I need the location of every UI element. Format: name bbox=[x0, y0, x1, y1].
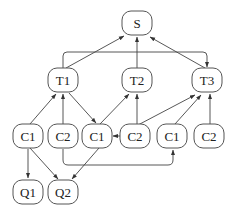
edge-T3-S bbox=[150, 37, 205, 68]
node-label: T3 bbox=[200, 73, 214, 88]
node-C2b: C2 bbox=[120, 124, 150, 148]
edge-C1c-T3 bbox=[175, 95, 201, 124]
node-C1b: C1 bbox=[82, 124, 112, 148]
node-T2: T2 bbox=[122, 68, 152, 92]
node-label: S bbox=[133, 16, 140, 31]
diagram-canvas: S T1 T2 T3 C1 C2 C1 C2 bbox=[0, 0, 237, 217]
node-label: Q2 bbox=[55, 185, 71, 200]
node-T1: T1 bbox=[48, 68, 78, 92]
node-Q1: Q1 bbox=[13, 180, 43, 204]
node-T3: T3 bbox=[192, 68, 222, 92]
node-label: T1 bbox=[56, 73, 70, 88]
node-label: C1 bbox=[164, 129, 179, 144]
node-C2c: C2 bbox=[194, 124, 224, 148]
edge-C1b-Q2 bbox=[72, 148, 99, 179]
node-label: T2 bbox=[130, 73, 144, 88]
edge-T1-T3 bbox=[63, 52, 207, 68]
edges bbox=[28, 36, 210, 179]
node-label: C2 bbox=[127, 129, 142, 144]
edge-C2a-C1c bbox=[63, 149, 173, 165]
node-S: S bbox=[122, 11, 152, 35]
node-label: C2 bbox=[55, 129, 70, 144]
edge-T1-C1b bbox=[69, 93, 96, 123]
edge-C2b-T3 bbox=[138, 95, 195, 125]
node-label: C1 bbox=[89, 129, 104, 144]
edge-C1a-T1 bbox=[30, 94, 56, 124]
node-label: C2 bbox=[201, 129, 216, 144]
node-label: C1 bbox=[20, 129, 35, 144]
node-C2a: C2 bbox=[48, 124, 78, 148]
edge-C1a-Q2 bbox=[30, 148, 58, 179]
node-C1a: C1 bbox=[13, 124, 43, 148]
node-Q2: Q2 bbox=[48, 180, 78, 204]
edge-C1b-T2 bbox=[100, 94, 129, 124]
node-label: Q1 bbox=[20, 185, 36, 200]
node-C1c: C1 bbox=[157, 124, 187, 148]
